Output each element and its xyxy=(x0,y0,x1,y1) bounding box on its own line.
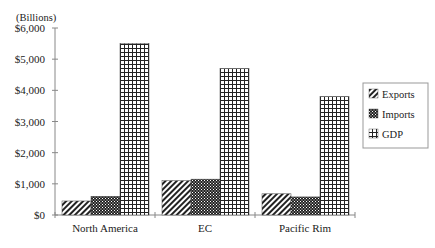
bar-gdp-ec xyxy=(220,69,249,215)
legend: ExportsImportsGDP xyxy=(363,83,428,148)
y-tick-label: $4,000 xyxy=(15,84,46,96)
y-tick-label: $3,000 xyxy=(15,116,46,128)
bar-gdp-north-america xyxy=(120,44,149,215)
y-tick-label: $0 xyxy=(34,209,46,221)
legend-label: Imports xyxy=(382,109,415,120)
y-tick-label: $6,000 xyxy=(15,22,46,34)
y-tick-label: $5,000 xyxy=(15,53,46,65)
bar-chart: (Billions) $0$1,000$2,000$3,000$4,000$5,… xyxy=(0,0,435,248)
x-category-label: North America xyxy=(72,222,138,234)
legend-swatch-exports-icon xyxy=(369,89,378,98)
bar-exports-pacific-rim xyxy=(262,194,291,215)
legend-label: Exports xyxy=(382,89,415,100)
y-axis: $0$1,000$2,000$3,000$4,000$5,000$6,000 xyxy=(15,22,58,221)
x-category-label: Pacific Rim xyxy=(279,222,332,234)
bars-group xyxy=(62,44,349,215)
x-axis: North AmericaECPacific Rim xyxy=(55,212,355,234)
bar-exports-north-america xyxy=(62,201,91,215)
bar-imports-pacific-rim xyxy=(291,197,320,215)
legend-swatch-imports-icon xyxy=(369,109,378,118)
legend-swatch-gdp-icon xyxy=(369,129,378,138)
x-category-label: EC xyxy=(198,222,212,234)
legend-label: GDP xyxy=(382,129,403,140)
y-tick-label: $2,000 xyxy=(15,147,46,159)
bar-imports-ec xyxy=(191,179,220,215)
bar-exports-ec xyxy=(162,181,191,215)
y-tick-label: $1,000 xyxy=(15,178,46,190)
bar-gdp-pacific-rim xyxy=(320,97,349,215)
bar-imports-north-america xyxy=(91,196,120,215)
